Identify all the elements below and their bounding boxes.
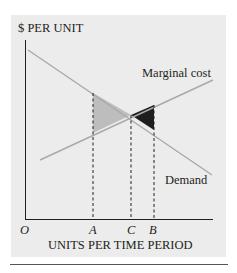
tick-label-a: A [89, 224, 97, 237]
tick-label-c: C [127, 224, 135, 237]
marginal-cost-label: Marginal cost [142, 67, 211, 80]
supply-demand-diagram [0, 0, 237, 273]
bottom-divider [10, 264, 228, 265]
tick-label-b: B [149, 224, 157, 237]
y-axis-label: $ PER UNIT [18, 22, 83, 35]
x-axis-label: UNITS PER TIME PERIOD [48, 239, 193, 252]
marginal-cost-curve [40, 80, 213, 160]
demand-label: Demand [165, 174, 207, 187]
origin-label: O [20, 224, 29, 237]
